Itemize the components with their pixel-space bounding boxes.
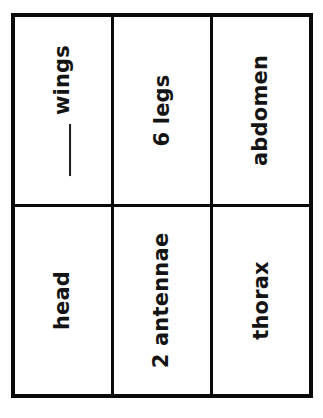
cell-label-head: head [52,271,73,330]
cell-label-antennae: 2 antennae [152,233,173,369]
rotated-label-wrapper: 6 legs [151,74,172,146]
worksheet-grid: wings 6 legs abdomen head 2 antennae [11,13,313,398]
cell-label-abdomen: abdomen [251,55,272,166]
grid-cell-legs[interactable]: 6 legs [114,17,213,204]
grid-cell-head[interactable]: head [15,207,114,394]
grid-row: head 2 antennae thorax [15,207,309,394]
cell-label-thorax: thorax [250,261,271,340]
grid-row: wings 6 legs abdomen [15,17,309,207]
rotated-label-wrapper: head [52,271,73,330]
grid-cell-wings[interactable]: wings [15,17,114,204]
grid-cell-abdomen[interactable]: abdomen [213,17,309,204]
blank-line-icon[interactable] [69,124,71,176]
grid-cell-thorax[interactable]: thorax [213,207,309,394]
rotated-label-wrapper: 2 antennae [152,233,173,369]
cell-label-wings: wings [53,45,74,115]
grid-cell-antennae[interactable]: 2 antennae [114,207,213,394]
cell-label-legs: 6 legs [151,74,172,146]
rotated-label-wrapper: thorax [250,261,271,340]
rotated-label-wrapper: wings [53,45,74,176]
rotated-label-wrapper: abdomen [251,55,272,166]
